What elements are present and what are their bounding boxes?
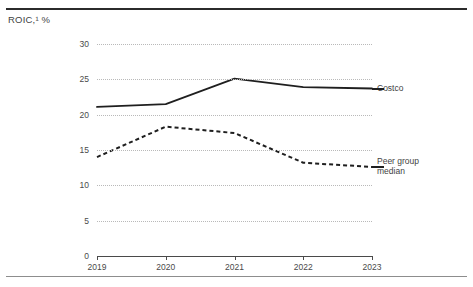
series-line-costco [97,79,372,107]
y-axis-tick-label: 5 [49,216,89,226]
x-axis-tick-mark [97,256,98,260]
chart-title: ROIC,¹ % [8,14,50,25]
x-axis-tick-mark [303,256,304,260]
gridline [97,115,372,116]
y-axis-tick-label: 20 [49,110,89,120]
x-axis-tick-label: 2021 [225,262,244,272]
chart-figure: ROIC,¹ % Costco Peer group median 051015… [0,0,473,287]
y-axis-tick-label: 15 [49,145,89,155]
gridline [97,221,372,222]
legend-peer-label-line2: median [377,166,419,177]
series-line-peer-group-median [97,127,372,167]
y-axis-tick-label: 0 [49,251,89,261]
x-axis-tick-label: 2019 [88,262,107,272]
x-axis-tick-mark [235,256,236,260]
gridline [97,150,372,151]
top-divider [6,8,467,10]
y-axis-tick-label: 30 [49,39,89,49]
y-axis-tick-label: 10 [49,180,89,190]
legend-peer-label-line1: Peer group [377,156,419,167]
plot-area [97,44,372,256]
legend-swatch-peer-group-median [372,166,384,168]
y-axis-tick-label: 25 [49,74,89,84]
gridline [97,44,372,45]
x-axis-tick-label: 2022 [294,262,313,272]
legend-swatch-costco [372,88,384,90]
x-axis-tick-mark [372,256,373,260]
gridline [97,185,372,186]
x-axis-tick-mark [166,256,167,260]
bottom-divider [6,276,467,277]
x-axis-tick-label: 2020 [156,262,175,272]
gridline [97,79,372,80]
x-axis-tick-label: 2023 [363,262,382,272]
